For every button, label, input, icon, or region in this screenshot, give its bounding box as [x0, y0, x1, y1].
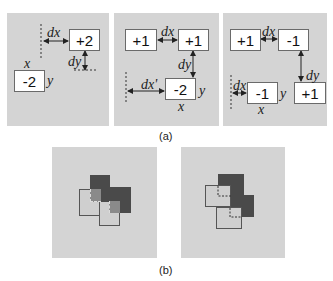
- hidden-edges-layer: [0, 0, 333, 281]
- hidden-edge-dashed: [230, 208, 242, 217]
- caption-b: (b): [159, 264, 172, 276]
- hidden-edge-dashed: [218, 186, 231, 196]
